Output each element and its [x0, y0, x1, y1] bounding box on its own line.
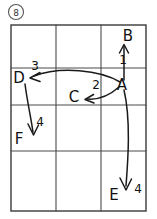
- edge-label-4a: 4: [36, 115, 44, 129]
- figure-badge: 8: [9, 5, 24, 20]
- node-label-c: C: [69, 88, 79, 106]
- node-label-e: E: [109, 186, 118, 204]
- edge-label-4b: 4: [134, 182, 142, 196]
- edge-d-to-f: 4: [25, 84, 44, 135]
- edge-label-3: 3: [31, 59, 39, 73]
- diagram-svg: 8 1 2 3: [0, 0, 157, 219]
- edge-a-to-b: 1: [119, 45, 128, 81]
- edge-label-2: 2: [92, 78, 100, 92]
- node-label-f: F: [15, 130, 24, 148]
- edge-a-to-d-line: [34, 70, 120, 82]
- edge-a-to-d-arrowhead: [30, 73, 40, 82]
- figure-canvas: 8 1 2 3: [0, 0, 157, 219]
- edge-a-to-c: 2: [85, 78, 119, 103]
- node-label-b: B: [123, 27, 133, 45]
- figure-badge-label: 8: [13, 8, 19, 18]
- edge-label-1: 1: [119, 53, 127, 67]
- edge-a-to-e: 4: [120, 90, 142, 196]
- node-label-d: D: [13, 69, 25, 87]
- edge-a-to-d: 3: [30, 59, 120, 82]
- node-label-a: A: [117, 76, 128, 94]
- edge-a-to-e-line: [124, 90, 128, 186]
